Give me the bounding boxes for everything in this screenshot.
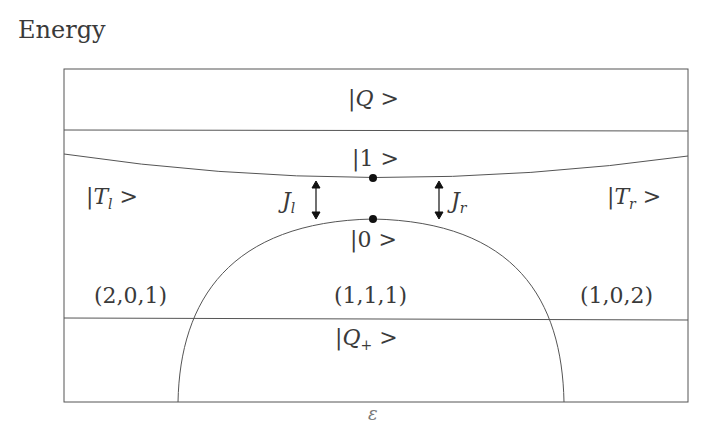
jr-arrow-icon — [435, 181, 443, 219]
qplus-level-line — [64, 318, 688, 320]
state-tr-label: |Tr > — [607, 186, 661, 211]
epsilon-axis-label: ε — [368, 405, 378, 423]
state-zero-label: |0 > — [350, 229, 397, 251]
region-center-label: (1,1,1) — [334, 285, 407, 307]
region-right-label: (1,0,2) — [580, 285, 653, 307]
coupling-jr-label: Jr — [451, 190, 467, 215]
region-left-label: (2,0,1) — [94, 285, 167, 307]
upper-degeneracy-dot — [369, 174, 377, 182]
coupling-jl-label: Jl — [282, 190, 295, 215]
state-qplus-label: |Q+ > — [335, 327, 398, 352]
lower-degeneracy-dot — [369, 215, 377, 223]
energy-diagram — [0, 0, 719, 441]
jl-arrow-icon — [312, 181, 320, 219]
energy-axis-label: Energy — [18, 18, 106, 42]
state-q-label: |Q > — [348, 88, 399, 110]
q-level-line — [64, 130, 688, 131]
state-one-label: |1 > — [352, 148, 399, 170]
state-tl-label: |Tl > — [86, 186, 138, 211]
